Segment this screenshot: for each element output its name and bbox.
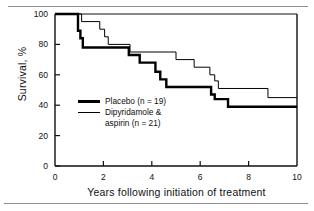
series-line-placebo — [55, 14, 297, 107]
y-tick-label: 100 — [24, 9, 48, 19]
x-tick-label: 6 — [190, 172, 210, 182]
y-tick-label: 40 — [24, 100, 48, 110]
chart-axes — [55, 14, 297, 166]
x-tick-label: 8 — [239, 172, 259, 182]
legend-item-placebo: Placebo (n = 19) — [78, 96, 166, 107]
legend-label-dipyridamole-line1: Dipyridamole & — [105, 107, 161, 118]
y-tick-label: 20 — [24, 131, 48, 141]
legend-label-placebo: Placebo (n = 19) — [105, 96, 166, 107]
chart-series — [55, 14, 297, 107]
x-axis-label: Years following initiation of treatment — [55, 186, 298, 198]
chart-plot-area: Survival, % Years following initiation o… — [0, 0, 314, 211]
figure-container: Survival, % Years following initiation o… — [0, 0, 314, 211]
chart-x-ticks — [103, 161, 248, 166]
chart-legend: Placebo (n = 19) Dipyridamole & aspirin … — [78, 96, 166, 129]
x-tick-label: 10 — [287, 172, 307, 182]
legend-line-thin-icon — [78, 112, 100, 113]
legend-item-dipyridamole-cont: aspirin (n = 21) — [78, 118, 166, 129]
series-line-dipyridamole-aspirin — [55, 14, 297, 98]
x-tick-label: 2 — [93, 172, 113, 182]
chart-y-ticks — [55, 14, 60, 166]
legend-line-thick-icon — [78, 100, 100, 102]
y-tick-label: 0 — [24, 161, 48, 171]
legend-label-dipyridamole-line2: aspirin (n = 21) — [105, 118, 161, 129]
legend-item-dipyridamole: Dipyridamole & — [78, 107, 166, 118]
y-tick-label: 60 — [24, 70, 48, 80]
y-tick-label: 80 — [24, 39, 48, 49]
x-tick-label: 4 — [142, 172, 162, 182]
x-tick-label: 0 — [45, 172, 65, 182]
